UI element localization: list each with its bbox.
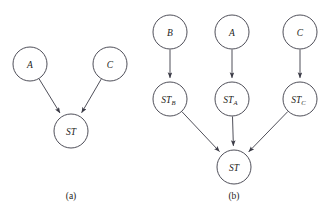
node-label-subscript-b-STC: C — [301, 98, 306, 105]
node-label-a-C: C — [107, 60, 114, 70]
node-b-STB: STB — [153, 82, 187, 116]
diagram-canvas: ACSTBACSTBSTASTCST (a)(b) — [0, 0, 331, 217]
node-label-b-ST: ST — [229, 163, 240, 173]
node-label-b-C: C — [297, 28, 304, 38]
figure-root: ACSTBACSTBSTASTCST (a)(b) — [0, 0, 331, 217]
edge-a-C-to-a-ST — [82, 79, 102, 113]
node-b-STC: STC — [283, 82, 317, 116]
node-b-ST: ST — [217, 150, 251, 184]
node-label-a-A: A — [26, 60, 33, 70]
panel-caption-a: (a) — [66, 191, 77, 202]
edge-b-STA-to-b-ST — [233, 116, 234, 145]
edge-a-A-to-a-ST — [39, 79, 60, 113]
node-a-A: A — [13, 47, 47, 81]
node-b-A: A — [215, 15, 249, 49]
nodes-layer: ACSTBACSTBSTASTCST — [13, 15, 317, 184]
edge-b-STB-to-b-ST — [182, 112, 219, 152]
node-label-a-ST: ST — [66, 127, 77, 137]
node-a-ST: ST — [54, 114, 88, 148]
node-a-C: C — [93, 47, 127, 81]
node-b-B: B — [153, 15, 187, 49]
node-label-b-A: A — [228, 28, 235, 38]
node-b-STA: STA — [215, 82, 249, 116]
node-label-b-B: B — [167, 28, 173, 38]
node-b-C: C — [283, 15, 317, 49]
captions-layer: (a)(b) — [66, 191, 240, 202]
panel-caption-b: (b) — [228, 191, 239, 202]
node-label-subscript-b-STB: B — [171, 98, 175, 105]
edge-b-STC-to-b-ST — [249, 112, 288, 152]
